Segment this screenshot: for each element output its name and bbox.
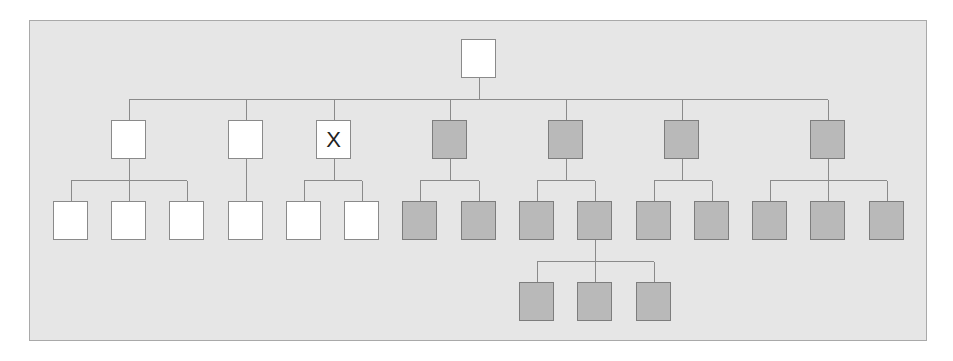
tree-node-f1 <box>636 201 671 240</box>
tree-node-g1 <box>752 201 787 240</box>
tree-node-f2 <box>694 201 729 240</box>
tree-node-root <box>461 39 496 78</box>
tree-node-a <box>111 120 146 159</box>
tree-node-a1 <box>53 201 88 240</box>
tree-node-d1 <box>402 201 437 240</box>
tree-node-e2c <box>636 282 671 321</box>
tree-node-g3 <box>869 201 904 240</box>
tree-node-a2 <box>111 201 146 240</box>
tree-node-a3 <box>169 201 204 240</box>
tree-node-c2 <box>344 201 379 240</box>
tree-node-b <box>228 120 263 159</box>
tree-node-e <box>548 120 583 159</box>
tree-node-d <box>432 120 467 159</box>
tree-node-g <box>810 120 845 159</box>
tree-node-e2a <box>519 282 554 321</box>
tree-node-e1 <box>519 201 554 240</box>
tree-node-e2b <box>577 282 612 321</box>
tree-node-g2 <box>810 201 845 240</box>
tree-node-e2 <box>577 201 612 240</box>
tree-node-d2 <box>461 201 496 240</box>
tree-node-c1 <box>286 201 321 240</box>
tree-node-f <box>664 120 699 159</box>
tree-node-b1 <box>228 201 263 240</box>
tree-node-c: X <box>316 120 351 159</box>
